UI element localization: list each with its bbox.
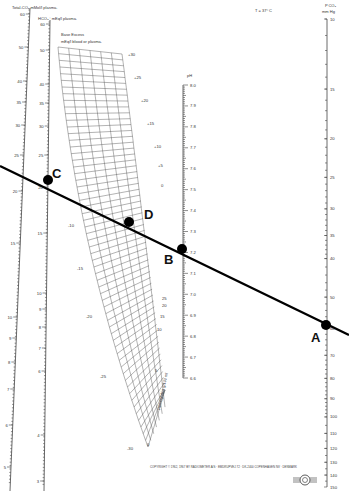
pco2-tick-label: 25 (330, 175, 335, 180)
hco3-tick-label: 60 (40, 22, 45, 27)
total-co2-tick-label: 7 (7, 387, 10, 392)
base-excess-label-left: -10 (68, 223, 75, 228)
base-excess-line (104, 283, 151, 307)
ph-tick-label: 6.9 (190, 313, 196, 318)
total-co2-tick-label: 6 (5, 423, 8, 428)
hco3-axis-line (44, 20, 50, 491)
hco3-tick-label: 25 (39, 153, 44, 158)
point-b-marker (177, 244, 187, 254)
pco2-tick-label: 120 (330, 446, 338, 451)
pco2-tick-label: 10 (330, 17, 335, 22)
total-co2-axis: 60504035302520151098765 (4, 8, 30, 491)
base-excess-line (106, 289, 152, 313)
hemoglobin-tick-label: 0 (147, 442, 150, 447)
base-excess-label-right: +20 (141, 98, 149, 103)
base-excess-label-left: -25 (100, 374, 107, 379)
base-excess-hemoglobin-grid (58, 47, 165, 447)
hemoglobin-tick-label: 20 (162, 303, 167, 308)
total-co2-tick-label: 9 (9, 336, 12, 341)
hco3-tick-label: 6 (38, 369, 41, 374)
total-co2-label: Total-CO₂ mMol/l plasma. (12, 5, 57, 10)
ph-tick-label: 7.1 (190, 271, 196, 276)
ph-tick-label: 7.0 (190, 292, 196, 297)
ph-tick-label: 6.8 (190, 334, 196, 339)
pco2-axis: 1015202530354050607080901001101201301401… (324, 17, 338, 490)
pco2-tick-label: 150 (330, 485, 338, 490)
pco2-tick-label: 20 (330, 136, 335, 141)
hco3-tick-label: 3 (37, 479, 40, 484)
ph-tick-label: 7.3 (190, 229, 196, 234)
point-c-label: C (52, 166, 62, 181)
hco3-tick-label: 30 (39, 124, 44, 129)
total-co2-tick-label: 25 (14, 153, 19, 158)
base-excess-line (102, 277, 150, 300)
hco3-tick-label: 15 (38, 231, 43, 236)
radiometer-logo-icon (293, 475, 317, 485)
total-co2-tick-label: 40 (17, 79, 22, 84)
hco3-tick-label: 8 (39, 325, 42, 330)
ph-tick-label: 7.8 (190, 124, 196, 129)
ph-tick-label: 7.2 (190, 250, 196, 255)
pco2-tick-label: 110 (330, 431, 337, 436)
hco3-label: HCO₃⁻ mEq/l plasma. (38, 16, 77, 21)
point-b-label: B (164, 252, 173, 267)
total-co2-tick-label: 15 (11, 241, 16, 246)
pco2-tick-label: 100 (330, 414, 338, 419)
hco3-tick-label: 7 (38, 346, 41, 351)
pco2-tick-label: 70 (330, 353, 335, 358)
pco2-tick-label: 90 (330, 396, 335, 401)
pco2-unit-label: mm Hg (322, 9, 335, 14)
hemoglobin-tick-label: 25 (162, 296, 167, 301)
point-a-label: A (311, 330, 321, 345)
pco2-tick-label: 130 (330, 460, 338, 465)
pco2-tick-label: 30 (330, 206, 335, 211)
total-co2-tick-label: 20 (13, 189, 18, 194)
hemoglobin-label: Hemoglobin g/100 ml (156, 372, 169, 410)
base-excess-labels: +30+25+20+15+10+50-10-15-20-25-30 (68, 52, 164, 451)
point-a-marker (321, 320, 331, 330)
point-d-label: D (144, 207, 153, 222)
nomogram: Total-CO₂ mMol/l plasma. HCO₃⁻ mEq/l pla… (0, 0, 349, 491)
ph-tick-label: 7.6 (190, 166, 196, 171)
hco3-tick-label: 35 (39, 101, 44, 106)
pco2-tick-label: 140 (330, 473, 338, 478)
base-excess-label-right: +10 (154, 144, 162, 149)
ph-tick-label: 6.6 (190, 376, 196, 381)
hco3-tick-label: 10 (37, 291, 42, 296)
base-excess-label-right: +15 (147, 121, 155, 126)
pco2-label: P CO₂ (325, 3, 336, 8)
pco2-tick-label: 15 (330, 87, 335, 92)
pco2-tick-label: 50 (330, 295, 335, 300)
ph-axis: 8.07.97.87.77.67.57.47.37.27.17.06.96.86… (183, 83, 196, 381)
ph-tick-label: 7.4 (190, 208, 196, 213)
pco2-tick-label: 35 (330, 233, 335, 238)
pco2-tick-label: 40 (330, 256, 335, 261)
ph-tick-label: 7.9 (190, 103, 196, 108)
base-excess-label-left: -15 (77, 266, 84, 271)
base-excess-label-right: +25 (134, 75, 142, 80)
base-excess-label-right: 0 (161, 183, 164, 188)
total-co2-tick-label: 50 (19, 45, 24, 50)
base-excess-label-right: +30 (128, 52, 136, 57)
base-excess-line (111, 307, 154, 334)
base-excess-label-right: +5 (158, 163, 163, 168)
ph-tick-label: 8.0 (190, 83, 196, 88)
ph-tick-label: 6.7 (190, 355, 196, 360)
ph-tick-label: 7.7 (190, 145, 196, 150)
hemoglobin-tick-label: 10 (157, 327, 162, 332)
ph-tick-label: 7.5 (190, 187, 196, 192)
copyright-text: COPYRIGHT © 1962, 1967 BY RADIOMETER A/S… (150, 465, 297, 469)
temperature-label: T = 37° C (255, 8, 272, 13)
base-excess-label-left: -20 (86, 314, 93, 319)
hemoglobin-tick-label: 15 (160, 314, 165, 319)
base-excess-unit-label: mEq/l blood or plasma. (61, 39, 102, 44)
hco3-tick-label: 40 (40, 82, 45, 87)
hco3-tick-label: 4 (37, 433, 40, 438)
total-co2-tick-label: 10 (8, 315, 13, 320)
point-d-marker (124, 217, 134, 227)
hco3-tick-label: 50 (40, 48, 45, 53)
base-excess-label: Base Excess (61, 32, 84, 37)
total-co2-tick-label: 30 (15, 123, 20, 128)
hco3-axis: 605040353025201510987643 (37, 20, 50, 491)
base-excess-label-left: -30 (127, 446, 134, 451)
